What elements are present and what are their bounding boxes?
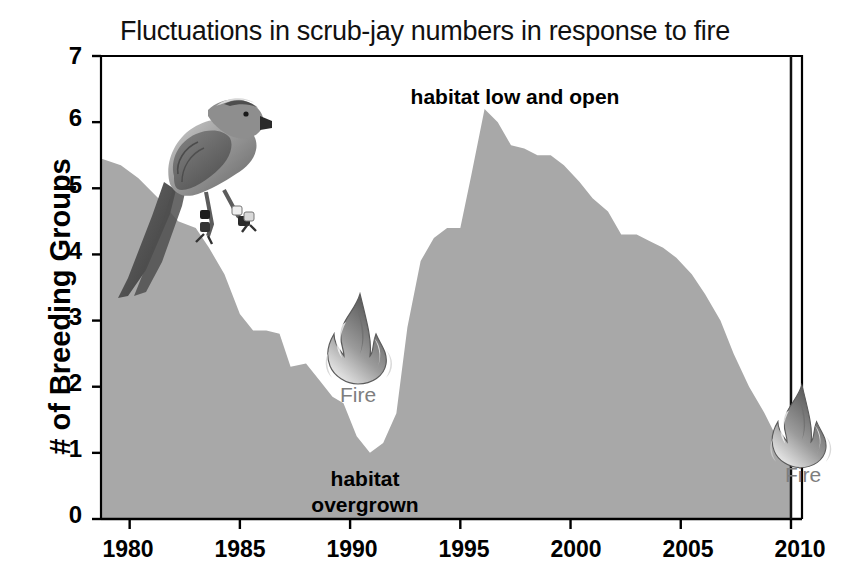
fire-flame-icon-left	[316, 292, 400, 392]
chart-figure: Fluctuations in scrub-jay numbers in res…	[0, 0, 850, 579]
fire-label-left: Fire	[323, 383, 393, 407]
fire-label-right: Fire	[768, 463, 838, 487]
scrub-jay-photo	[112, 64, 272, 314]
annotation-habitat-low-open: habitat low and open	[355, 84, 675, 110]
annotation-habitat-overgrown: habitat overgrown	[265, 466, 465, 518]
fire-flame-icon-right	[761, 383, 839, 475]
